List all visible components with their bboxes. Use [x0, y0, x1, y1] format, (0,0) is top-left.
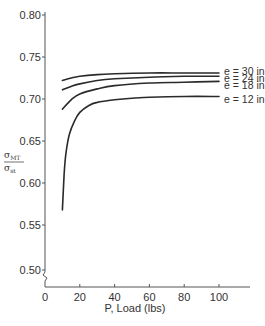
chart: 0.800.750.700.650.600.550.50 02040608010… — [0, 0, 265, 326]
y-axis-title: σMT σst — [4, 150, 24, 174]
series-label: e = 12 in — [224, 93, 265, 105]
y-tick-label: 0.55 — [20, 219, 41, 231]
y-tick-label: 0.60 — [20, 177, 41, 189]
series-line — [62, 96, 219, 209]
y-axis-title-numerator: σMT — [4, 150, 20, 161]
x-tick-label: 20 — [74, 291, 86, 303]
y-tick-label: 0.50 — [20, 264, 41, 276]
series-labels: e = 30 ine = 24 ine = 18 ine = 12 in — [224, 65, 265, 105]
y-axis-ticks: 0.800.750.700.650.600.550.50 — [20, 9, 45, 276]
x-tick-label: 100 — [210, 291, 228, 303]
x-tick-label: 0 — [42, 291, 48, 303]
axes — [43, 12, 250, 287]
series-lines — [62, 73, 219, 210]
x-tick-label: 80 — [178, 291, 190, 303]
y-tick-label: 0.70 — [20, 93, 41, 105]
y-axis-title-denominator: σst — [4, 163, 16, 174]
series-label: e = 18 in — [224, 79, 265, 91]
y-tick-label: 0.65 — [20, 135, 41, 147]
x-axis-title: P, Load (lbs) — [105, 302, 166, 314]
series-line — [62, 81, 219, 109]
y-axis-break-icon — [43, 272, 47, 287]
y-tick-label: 0.80 — [20, 9, 41, 21]
y-tick-label: 0.75 — [20, 51, 41, 63]
